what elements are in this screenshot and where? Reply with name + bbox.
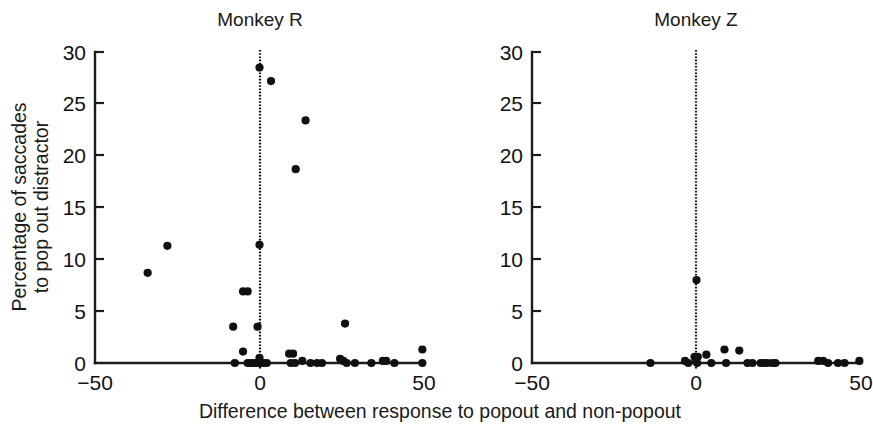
data-point (382, 357, 390, 365)
data-point (684, 359, 692, 367)
data-point (735, 346, 743, 354)
data-point (646, 359, 654, 367)
y-tick-label: 30 (63, 41, 86, 64)
scatter-figure: Monkey R 30 25 20 15 10 5 (0, 0, 873, 429)
data-point (244, 287, 252, 295)
y-tick-label: 25 (500, 92, 523, 115)
data-point (291, 359, 299, 367)
data-point (263, 359, 271, 367)
x-tick-label: −50 (514, 371, 550, 394)
data-point (267, 77, 275, 85)
data-point (301, 116, 309, 124)
x-tick-labels-left: −50 0 50 (77, 371, 435, 394)
data-point (253, 323, 261, 331)
data-point (693, 359, 701, 367)
panel-monkey-z: Monkey Z 30 25 20 15 10 5 0 − (500, 9, 873, 394)
y-tick-label: 5 (74, 300, 86, 323)
data-point (418, 345, 426, 353)
x-tick-label: 0 (254, 371, 266, 394)
data-points-monkey-z (646, 276, 863, 367)
data-point (229, 323, 237, 331)
y-tick-label: 10 (63, 248, 86, 271)
data-point (702, 351, 710, 359)
data-point (707, 359, 715, 367)
data-point (144, 269, 152, 277)
data-point (231, 359, 239, 367)
y-axis-title-line1: Percentage of saccades (8, 102, 30, 311)
x-tick-label: 50 (412, 371, 435, 394)
data-point (418, 359, 426, 367)
y-tick-label: 25 (63, 92, 86, 115)
data-point (343, 359, 351, 367)
data-point (367, 359, 375, 367)
y-axis-title: Percentage of saccades to pop out distra… (8, 102, 52, 311)
panel-monkey-r: Monkey R 30 25 20 15 10 5 (63, 9, 436, 394)
data-point (692, 276, 700, 284)
y-ticks-right (532, 52, 541, 311)
x-tick-label: 50 (849, 371, 872, 394)
data-point (771, 359, 779, 367)
data-point (722, 359, 730, 367)
y-tick-label: 15 (500, 196, 523, 219)
figure-root: Monkey R 30 25 20 15 10 5 (0, 0, 873, 429)
data-point (239, 348, 247, 356)
x-tick-label: 0 (690, 371, 702, 394)
data-point (720, 345, 728, 353)
y-tick-label: 15 (63, 196, 86, 219)
data-point (163, 242, 171, 250)
data-point (298, 357, 306, 365)
y-tick-labels-left: 30 25 20 15 10 5 0 (63, 41, 86, 375)
x-tick-label: −50 (77, 371, 113, 394)
x-tick-labels-right: −50 0 50 (514, 371, 872, 394)
x-axis-title: Difference between response to popout an… (199, 400, 682, 422)
y-ticks-left (95, 52, 104, 311)
data-point (840, 359, 848, 367)
y-tick-label: 20 (500, 144, 523, 167)
data-point (289, 350, 297, 358)
data-point (824, 359, 832, 367)
data-point (351, 359, 359, 367)
data-point (855, 357, 863, 365)
data-point (390, 359, 398, 367)
y-tick-label: 10 (500, 248, 523, 271)
y-axis-title-line2: to pop out distractor (30, 120, 52, 293)
y-tick-label: 5 (511, 300, 523, 323)
data-point (748, 359, 756, 367)
y-tick-label: 20 (63, 144, 86, 167)
y-tick-labels-right: 30 25 20 15 10 5 0 (500, 41, 523, 375)
data-point (255, 63, 263, 71)
panel-title-monkey-r: Monkey R (217, 9, 303, 30)
panel-title-monkey-z: Monkey Z (654, 9, 738, 30)
data-point (318, 359, 326, 367)
data-points-monkey-r (144, 63, 427, 367)
data-point (255, 241, 263, 249)
y-tick-label: 30 (500, 41, 523, 64)
data-point (292, 165, 300, 173)
data-point (341, 320, 349, 328)
